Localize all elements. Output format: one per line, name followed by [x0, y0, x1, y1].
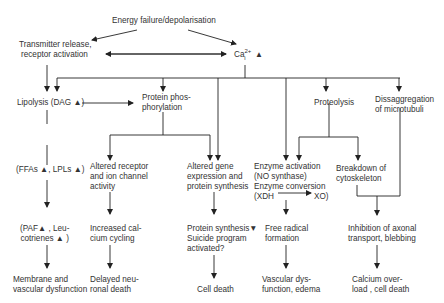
line: function, edema — [262, 285, 320, 295]
line: Suicide program — [187, 234, 257, 244]
line: Enzyme activation — [254, 162, 325, 172]
line: Free radical — [265, 224, 308, 234]
line: Enzyme conversion — [254, 182, 325, 192]
enzyme-activation-node: Enzyme activation (NO synthase) Enzyme c… — [254, 162, 325, 202]
line: Transmitter release, — [19, 40, 92, 50]
altered-receptor-node: Altered receptor and ion channel activit… — [90, 162, 148, 192]
ca-subscript: i — [244, 55, 245, 61]
line: and ion channel — [90, 172, 148, 182]
xo-text: XO) — [314, 192, 329, 202]
paf-leucotrienes-node: (PAF▲ , Leu- cotrienes ▲ ) — [20, 224, 69, 244]
line: Altered gene — [187, 162, 248, 172]
line: (NO synthase) — [254, 172, 325, 182]
delayed-death-node: Delayed neu- ronal death — [90, 275, 139, 295]
line: (PAF▲ , Leu- — [20, 224, 69, 234]
line: activated? — [187, 244, 257, 254]
line: expression and — [187, 172, 248, 182]
line: Inhibition of axonal — [348, 224, 416, 234]
xdh-xo-line: (XDH XO) — [254, 192, 325, 202]
disaggregation-node: Dissaggregation of microtubuli — [375, 95, 434, 115]
pathophysiology-diagram: Energy failure/depolarisation Transmitte… — [0, 0, 444, 303]
line: protein synthesis — [187, 182, 248, 192]
line: Calcium over- — [352, 275, 409, 285]
line: cotrienes ▲ ) — [20, 234, 69, 244]
transmitter-release-node: Transmitter release, receptor activation — [19, 40, 92, 60]
line: Membrane and — [13, 275, 87, 285]
line: Protein synthesis▼ — [187, 224, 257, 234]
line: cytoskeleton — [336, 174, 386, 184]
line: formation — [265, 234, 308, 244]
line: cium cycling — [90, 234, 141, 244]
line: Breakdown of — [336, 164, 386, 174]
line: transport, blebbing — [348, 234, 416, 244]
line: Vascular dys- — [262, 275, 320, 285]
ca-superscript: 2+ — [244, 48, 251, 54]
line: Delayed neu- — [90, 275, 139, 285]
line: of microtubuli — [375, 105, 434, 115]
line: ronal death — [90, 285, 139, 295]
breakdown-cytoskeleton-node: Breakdown of cytoskeleton — [336, 164, 386, 184]
line: Dissaggregation — [375, 95, 434, 105]
altered-gene-node: Altered gene expression and protein synt… — [187, 162, 248, 192]
cell-death-node: Cell death — [197, 285, 234, 295]
line: Protein phos- — [142, 93, 191, 103]
ca-text: Ca — [234, 50, 244, 59]
proteolysis-node: Proteolysis — [314, 98, 354, 108]
calcium-node: Ca2+i ▲ — [234, 50, 263, 60]
free-radical-node: Free radical formation — [265, 224, 308, 244]
calcium-cycling-node: Increased cal- cium cycling — [90, 224, 141, 244]
line: load , cell death — [352, 285, 409, 295]
up-arrow-icon: ▲ — [255, 50, 263, 59]
inhibition-axonal-node: Inhibition of axonal transport, blebbing — [348, 224, 416, 244]
line: activity — [90, 182, 148, 192]
protein-synthesis-node: Protein synthesis▼ Suicide program activ… — [187, 224, 257, 254]
lipolysis-node: Lipolysis (DAG ▲) — [17, 98, 84, 108]
membrane-dysfunction-node: Membrane and vascular dysfunction — [13, 275, 87, 295]
line: vascular dysfunction — [13, 285, 87, 295]
line: phorylation — [142, 103, 191, 113]
vascular-dysfunction-node: Vascular dys- function, edema — [262, 275, 320, 295]
line: Increased cal- — [90, 224, 141, 234]
line: receptor activation — [19, 50, 92, 60]
energy-failure-label: Energy failure/depolarisation — [112, 16, 216, 26]
ffas-lpls-node: (FFAs ▲, LPLs ▲) — [16, 165, 85, 175]
protein-phosphorylation-node: Protein phos- phorylation — [142, 93, 191, 113]
line: Altered receptor — [90, 162, 148, 172]
calcium-overload-node: Calcium over- load , cell death — [352, 275, 409, 295]
xdh-text: (XDH — [254, 192, 274, 201]
